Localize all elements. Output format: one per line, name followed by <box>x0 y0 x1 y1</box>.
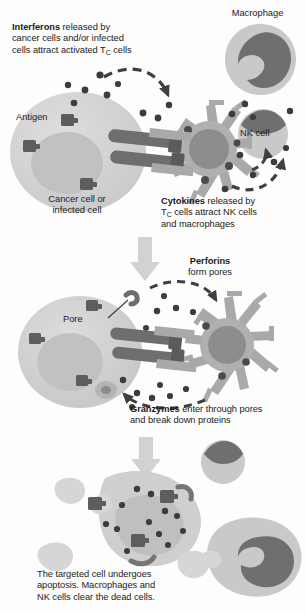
caption-perforins: Perforins form pores <box>150 256 270 279</box>
caption-cytokines-bold: Cytokines <box>161 196 205 206</box>
caption-interferons-line2: cancer cells and/or infected <box>12 33 124 43</box>
caption-granzymes-line1: enter through pores <box>180 404 263 414</box>
caption-apoptosis-line3: NK cells clear the dead cells. <box>37 592 155 602</box>
caption-cytokines: Cytokines released by TC cells attract N… <box>161 196 301 230</box>
perforin-dots <box>143 293 196 331</box>
t-cell-middle <box>180 291 279 403</box>
caption-apoptosis-line2: apoptosis. Macrophages and <box>37 580 155 590</box>
macrophage-top <box>225 24 296 95</box>
caption-granzymes-line2: and break down proteins <box>130 415 231 425</box>
caption-interferons-bold: Interferons <box>12 22 60 32</box>
immunology-diagram: Interferons released by cancer cells and… <box>0 0 306 613</box>
caption-interferons-line3-post: cells <box>111 45 132 55</box>
caption-apoptosis-line1: The targeted cell undergoes <box>37 569 151 579</box>
label-pore: Pore <box>63 314 105 325</box>
caption-cytokines-line2-post: cells attract NK cells <box>172 207 257 217</box>
caption-granzymes: Granzymes enter through pores and break … <box>130 404 306 427</box>
diagram-graphics <box>0 0 306 613</box>
caption-interferons-line1: released by <box>60 22 110 32</box>
caption-interferons: Interferons released by cancer cells and… <box>12 22 182 56</box>
dashed-arrow-interferon <box>104 69 168 95</box>
label-macrophage: Macrophage <box>215 8 300 19</box>
label-nk-cell: NK cell <box>240 128 296 139</box>
dashed-arrow-perforin <box>150 282 216 300</box>
label-antigen: Antigen <box>16 112 76 123</box>
apoptotic-cell <box>38 471 209 578</box>
caption-cytokines-line1: released by <box>205 196 255 206</box>
caption-interferons-line3-pre: cells attract activated T <box>12 45 106 55</box>
caption-granzymes-bold: Granzymes <box>130 404 180 414</box>
caption-apoptosis: The targeted cell undergoes apoptosis. M… <box>37 569 237 603</box>
caption-perforins-bold: Perforins <box>190 256 230 266</box>
caption-perforins-line2: form pores <box>188 267 232 277</box>
label-cancer-cell: Cancer cell or infected cell <box>25 194 129 216</box>
caption-cytokines-line3: and macrophages <box>161 219 235 229</box>
nk-cell-bottom <box>201 440 245 484</box>
